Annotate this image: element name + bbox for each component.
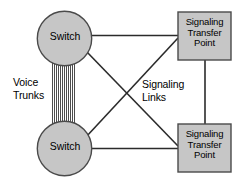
stp-bottom-box [178,124,231,172]
network-diagram: Switch Switch Signaling Transfer Point S… [0,0,245,181]
stp-top-box [178,12,231,60]
switch-top-circle [37,11,91,65]
switch-bottom-circle [37,121,91,175]
signaling-links-label: Signaling Links [142,78,200,104]
voice-trunks-label: Voice Trunks [13,76,59,102]
